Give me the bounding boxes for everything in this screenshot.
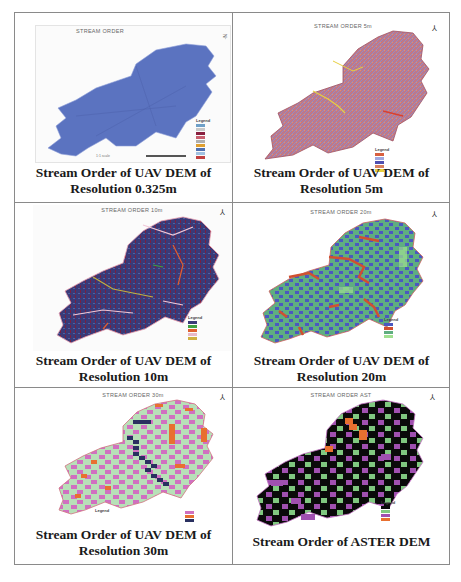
caption-line-1: Stream Order of UAV DEM of (15, 353, 232, 369)
caption-line-1: Stream Order of UAV DEM of (233, 165, 450, 181)
map-frame: STREAM ORDER N↑ Legend 1:1 scale (35, 25, 231, 163)
caption-line-1: Stream Order of ASTER DEM (233, 534, 450, 550)
legend-title: Legend (95, 508, 109, 513)
map-legend: Legend (196, 118, 210, 159)
map-frame: STREAM ORDER AST ⅄ (241, 390, 441, 530)
map-frame: STREAM ORDER 5m ⅄ Legend (243, 21, 443, 169)
map-frame: STREAM ORDER 10m ⅄ (33, 205, 231, 351)
map-legend: Legend (188, 315, 202, 340)
panel-aster-dem: STREAM ORDER AST ⅄ (233, 388, 450, 566)
panel-caption: Stream Order of UAV DEM of Resolution 5m (233, 165, 450, 197)
legend-swatch (185, 519, 194, 522)
legend-swatch (196, 156, 205, 159)
caption-line-1: Stream Order of UAV DEM of (15, 527, 232, 543)
caption-line-2: Resolution 5m (233, 181, 450, 197)
legend-swatches (188, 320, 202, 340)
map-legend-swatches (185, 510, 196, 522)
panel-caption: Stream Order of UAV DEM of Resolution 10… (15, 353, 232, 385)
legend-item (188, 336, 202, 340)
legend-swatches (196, 123, 210, 159)
panel-uav-20m: STREAM ORDER 20m ⅄ (233, 203, 450, 387)
legend-swatches (381, 505, 395, 521)
legend-swatch (188, 337, 197, 340)
legend-item (185, 518, 196, 522)
legend-swatch (381, 518, 390, 521)
legend-item (384, 334, 398, 338)
scale-bar (146, 155, 186, 157)
map-legend: Legend (95, 508, 109, 513)
legend-swatches (185, 510, 196, 522)
caption-line-2: Resolution 30m (15, 543, 232, 559)
panel-caption: Stream Order of UAV DEM of Resolution 20… (233, 353, 450, 385)
caption-line-2: Resolution 20m (233, 369, 450, 385)
panel-caption: Stream Order of UAV DEM of Resolution 30… (15, 527, 232, 559)
panel-uav-30m: STREAM ORDER 30m ⅄ (15, 388, 232, 566)
panel-caption: Stream Order of UAV DEM of Resolution 0.… (15, 165, 232, 197)
stream-order-map (243, 21, 443, 169)
stream-order-map (35, 390, 231, 526)
legend-swatch (384, 335, 393, 338)
legend-item (381, 517, 395, 521)
stream-order-map (239, 207, 443, 353)
scale-text: 1:1 scale (96, 154, 110, 158)
caption-line-2: Resolution 0.325m (15, 181, 232, 197)
map-legend: Legend (381, 500, 395, 521)
map-frame: STREAM ORDER 30m ⅄ (35, 390, 231, 526)
caption-line-2: Resolution 10m (15, 369, 232, 385)
figure-grid: STREAM ORDER N↑ Legend 1:1 scale Stream … (14, 12, 450, 565)
panel-uav-10m: STREAM ORDER 10m ⅄ (15, 203, 232, 387)
legend-swatches (384, 322, 398, 338)
north-arrow-icon: N↑ (222, 34, 227, 40)
panel-caption: Stream Order of ASTER DEM (233, 534, 450, 550)
caption-line-1: Stream Order of UAV DEM of (15, 165, 232, 181)
panel-uav-5m: STREAM ORDER 5m ⅄ Legend (233, 13, 450, 202)
panel-uav-0325m: STREAM ORDER N↑ Legend 1:1 scale Stream … (15, 13, 232, 202)
legend-item (196, 155, 210, 159)
caption-line-1: Stream Order of UAV DEM of (233, 353, 450, 369)
stream-order-map (241, 390, 441, 530)
map-legend: Legend (384, 317, 398, 338)
map-frame: STREAM ORDER 20m ⅄ (239, 207, 443, 353)
